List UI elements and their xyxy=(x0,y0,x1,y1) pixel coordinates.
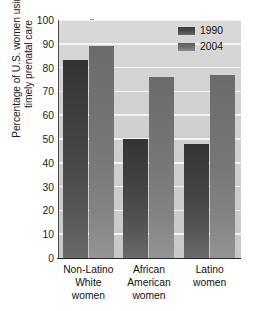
legend-item-1990: 1990 xyxy=(178,24,240,37)
x-category-label-line: Non-Latino xyxy=(58,263,119,276)
legend-swatch-icon-1990 xyxy=(178,27,195,35)
x-category-label-line: women xyxy=(58,289,119,302)
x-category-label-line: Latino xyxy=(179,263,240,276)
bar-2004-2[interactable] xyxy=(210,75,235,258)
legend: 1990 2004 xyxy=(178,24,240,56)
y-tick-label: 100 xyxy=(36,15,54,26)
y-tick-label: 40 xyxy=(36,157,54,168)
bar-1990-1[interactable] xyxy=(123,139,148,258)
x-category-label: Latinowomen xyxy=(179,263,240,289)
x-category-label-line: women xyxy=(119,289,180,302)
y-axis-title-line-1: Percentage of U.S. women using xyxy=(11,0,24,138)
y-tick-label: 60 xyxy=(36,110,54,121)
y-tick-label: 30 xyxy=(36,181,54,192)
x-category-label-line: women xyxy=(179,276,240,289)
y-tick-label: 80 xyxy=(36,62,54,73)
y-tick-label: 50 xyxy=(36,134,54,145)
legend-item-2004: 2004 xyxy=(178,40,240,53)
y-axis-title: Percentage of U.S. women using timely pr… xyxy=(8,0,38,173)
x-category-label-line: African xyxy=(119,263,180,276)
x-category-label-line: White xyxy=(58,276,119,289)
x-category-label: Non-LatinoWhitewomen xyxy=(58,263,119,303)
y-tick-label: 70 xyxy=(36,86,54,97)
x-category-label: AfricanAmericanwomen xyxy=(119,263,180,303)
y-tick-label: 90 xyxy=(36,38,54,49)
legend-label-1990: 1990 xyxy=(200,26,223,36)
x-category-label-line: American xyxy=(119,276,180,289)
x-axis-category-labels: Non-LatinoWhitewomenAfricanAmericanwomen… xyxy=(58,263,240,311)
bar-group xyxy=(119,20,180,258)
x-axis-line xyxy=(57,258,241,259)
bar-2004-1[interactable] xyxy=(149,77,174,258)
y-axis-title-line-2: timely prenatal care xyxy=(23,20,36,108)
y-tick-label: 0 xyxy=(36,253,54,264)
legend-label-2004: 2004 xyxy=(200,42,223,52)
legend-swatch-icon-2004 xyxy=(178,43,195,51)
bar-1990-0[interactable] xyxy=(63,60,88,258)
bar-group xyxy=(58,20,119,258)
y-tick-label: 10 xyxy=(36,229,54,240)
y-tick-label: 20 xyxy=(36,205,54,216)
bar-2004-0[interactable] xyxy=(89,46,114,258)
y-axis-ticks: 0102030405060708090100 xyxy=(36,14,54,264)
bar-chart: Percentage of U.S. women using timely pr… xyxy=(0,0,258,311)
bar-1990-2[interactable] xyxy=(184,144,209,258)
